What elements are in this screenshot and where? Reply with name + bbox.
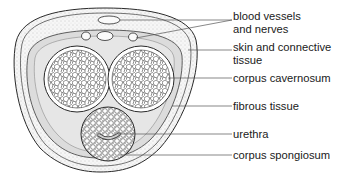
label-corpus-spongiosum: corpus spongiosum [233,149,330,162]
vein-center [97,32,113,41]
label-corpus-cavernosum: corpus cavernosum [233,72,331,85]
artery-left [82,32,91,40]
label-urethra: urethra [233,128,268,141]
artery-right [129,33,138,41]
dorsal-vein [98,16,120,24]
label-skin-connective-tissue: skin and connective tissue [233,41,331,66]
label-blood-vessels: blood vessels and nerves [233,10,301,35]
label-fibrous-tissue: fibrous tissue [233,100,299,113]
